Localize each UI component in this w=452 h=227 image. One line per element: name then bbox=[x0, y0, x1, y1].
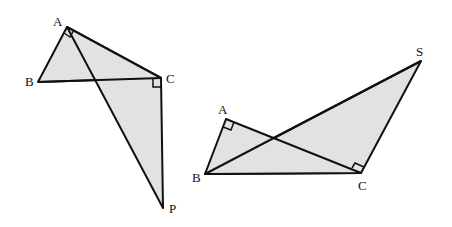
label-a-left: A bbox=[53, 14, 63, 29]
label-c-right: C bbox=[358, 178, 367, 193]
label-s-right: S bbox=[416, 44, 423, 59]
label-a-right: A bbox=[218, 102, 228, 117]
label-p-left: P bbox=[169, 201, 176, 216]
triangle-apc-left bbox=[67, 27, 163, 208]
right-figure: A B C S bbox=[192, 44, 423, 193]
label-b-left: B bbox=[25, 74, 34, 89]
geometry-diagram: A B C P A B C S bbox=[0, 0, 452, 227]
label-c-left: C bbox=[166, 71, 175, 86]
label-b-right: B bbox=[192, 170, 201, 185]
left-figure: A B C P bbox=[25, 14, 176, 216]
